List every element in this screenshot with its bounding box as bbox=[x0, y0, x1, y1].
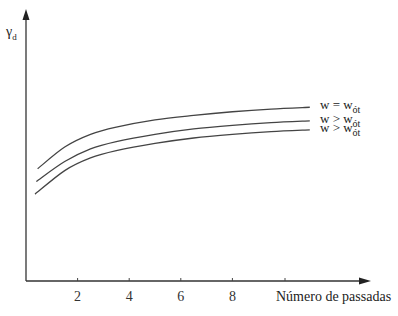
x-tick-label: 8 bbox=[229, 289, 236, 305]
y-axis bbox=[23, 9, 30, 281]
series-line-3 bbox=[35, 130, 310, 194]
series-line-2 bbox=[36, 121, 309, 182]
y-axis-label: γd bbox=[6, 24, 17, 42]
x-axis-arrow-icon bbox=[359, 278, 371, 285]
x-axis bbox=[26, 278, 371, 285]
x-tick-label: 4 bbox=[126, 289, 133, 305]
series-line-1 bbox=[38, 107, 310, 169]
plot-lines bbox=[35, 107, 310, 194]
chart-canvas bbox=[0, 0, 398, 316]
x-tick-label: 2 bbox=[74, 289, 81, 305]
x-tick-label: 6 bbox=[177, 289, 184, 305]
x-axis-label: Número de passadas bbox=[276, 289, 391, 305]
legend-item-3: w > wót bbox=[320, 120, 360, 138]
y-axis-arrow-icon bbox=[23, 9, 30, 20]
